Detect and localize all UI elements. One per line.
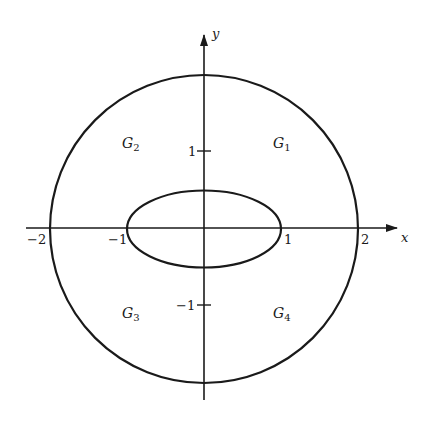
region-label-g1: G1	[273, 135, 291, 153]
region-diagram: y x −2 −1 1 2 1 −1 G1 G2 G3 G4	[0, 0, 424, 421]
x-tick-label-2: 2	[361, 232, 369, 247]
x-tick-label-1: 1	[284, 232, 292, 247]
region-label-g4: G4	[273, 305, 291, 323]
x-tick-label-minus-2: −2	[27, 232, 46, 247]
x-tick-label-minus-1: −1	[108, 232, 127, 247]
region-label-g2: G2	[122, 135, 140, 153]
diagram-canvas: y x −2 −1 1 2 1 −1 G1 G2 G3 G4	[0, 0, 424, 421]
y-tick-label-minus-1: −1	[176, 298, 195, 313]
region-label-g3: G3	[122, 305, 140, 323]
y-tick-label-1: 1	[188, 144, 196, 159]
x-axis-label: x	[401, 230, 409, 245]
y-axis-label: y	[211, 26, 220, 41]
